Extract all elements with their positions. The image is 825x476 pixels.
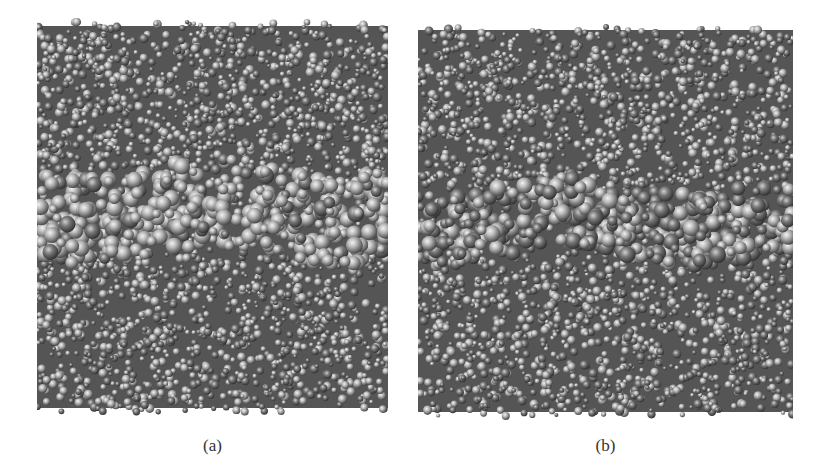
snapshot-panel-a xyxy=(37,18,388,416)
molecular-snapshot-image xyxy=(37,18,388,416)
panel-label-a: (a) xyxy=(183,436,243,456)
molecular-snapshot-image xyxy=(418,22,793,420)
snapshot-panel-b xyxy=(418,22,793,420)
panel-label-b: (b) xyxy=(576,436,636,456)
